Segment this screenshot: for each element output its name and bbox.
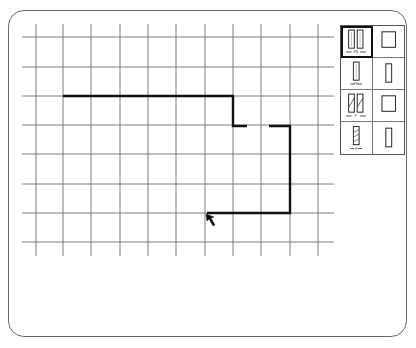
symbol-palette: FB FB F	[340, 25, 405, 155]
palette-item-double-hatched-window[interactable]: F	[341, 90, 373, 122]
double-hatched-window-icon: F	[341, 90, 372, 121]
palette-item-large-square-window-alt[interactable]	[373, 90, 405, 122]
svg-text:F: F	[355, 146, 357, 151]
svg-text:F: F	[355, 113, 357, 118]
wall-segment	[207, 126, 290, 213]
narrow-window-icon	[373, 58, 405, 89]
palette-item-single-window[interactable]: FB	[341, 58, 373, 90]
palette-item-single-hatched-window[interactable]: F	[341, 122, 373, 154]
narrow-window-icon	[373, 122, 405, 154]
palette-item-large-square-window[interactable]	[373, 26, 405, 58]
arrow-pointer-icon	[206, 214, 215, 226]
palette-item-double-window[interactable]: FB	[341, 26, 373, 58]
palette-item-narrow-window[interactable]	[373, 58, 405, 90]
palette-item-narrow-window-alt[interactable]	[373, 122, 405, 154]
double-window-dimension-icon: FB	[341, 26, 372, 57]
svg-text:FB: FB	[354, 81, 359, 86]
svg-text:FB: FB	[353, 49, 358, 54]
square-window-icon	[373, 26, 405, 57]
single-window-dimension-icon: FB	[341, 58, 372, 89]
square-window-icon	[373, 90, 405, 121]
single-hatched-window-icon: F	[341, 122, 372, 154]
